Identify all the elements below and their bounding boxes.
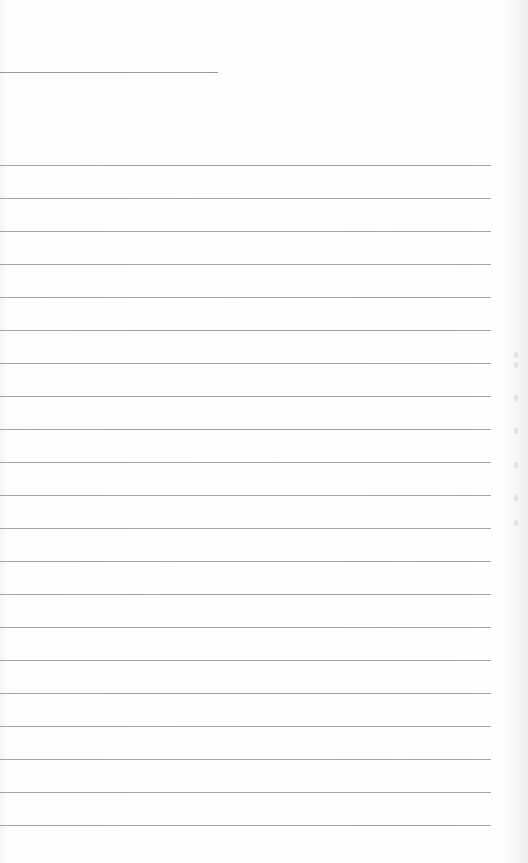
ruled-line [0,264,491,265]
lined-paper-page [0,0,528,863]
ruled-line [0,792,491,793]
ruled-line [0,759,491,760]
ruled-line [0,561,491,562]
ruled-line [0,297,491,298]
header-write-line [0,72,218,73]
show-through-mark [514,395,518,401]
ruled-line [0,825,491,826]
ruled-line [0,330,491,331]
show-through-mark [514,520,518,526]
ruled-line [0,165,491,166]
ruled-line [0,594,491,595]
ruled-line [0,726,491,727]
ruled-line [0,231,491,232]
show-through-mark [514,495,518,501]
ruled-line [0,429,491,430]
show-through-mark [514,352,518,358]
ruled-line [0,198,491,199]
ruled-line [0,363,491,364]
ruled-line [0,528,491,529]
ruled-line [0,396,491,397]
show-through-mark [514,362,518,368]
ruled-line [0,660,491,661]
ruled-line [0,627,491,628]
ruled-line [0,495,491,496]
ruled-line [0,462,491,463]
show-through-mark [514,428,518,434]
show-through-mark [514,462,518,468]
ruled-line [0,693,491,694]
